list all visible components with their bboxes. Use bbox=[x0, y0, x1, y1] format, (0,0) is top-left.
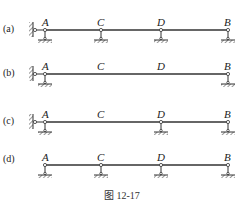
case-label: (b) bbox=[3, 67, 15, 79]
hinge-icon bbox=[33, 28, 36, 31]
node-label-c: C bbox=[97, 16, 105, 28]
hinge-icon bbox=[33, 72, 36, 75]
node-label-d: D bbox=[156, 60, 165, 72]
row-c: (c) A C D B bbox=[3, 108, 235, 135]
node-label-a: A bbox=[41, 60, 49, 72]
hinge-icon bbox=[33, 120, 36, 123]
node-label-a: A bbox=[41, 151, 49, 163]
node-label-b: B bbox=[224, 108, 231, 120]
node-label-b: B bbox=[224, 60, 231, 72]
case-label: (a) bbox=[3, 23, 14, 35]
node-label-c: C bbox=[97, 151, 105, 163]
node-label-b: B bbox=[224, 151, 231, 163]
node-label-a: A bbox=[41, 16, 49, 28]
node-label-d: D bbox=[156, 16, 165, 28]
wall-hatch-icon bbox=[29, 66, 33, 81]
row-d: (d) A C D B bbox=[3, 151, 235, 178]
node-label-a: A bbox=[41, 108, 49, 120]
node-label-c: C bbox=[97, 108, 105, 120]
wall-hatch-icon bbox=[29, 114, 33, 129]
node-label-d: D bbox=[156, 108, 165, 120]
figure-caption: 图 12-17 bbox=[104, 190, 140, 201]
wall-hatch-icon bbox=[29, 22, 33, 37]
beam-diagram: (a) A C D bbox=[0, 0, 245, 209]
row-a: (a) A C D bbox=[3, 16, 235, 43]
case-label: (d) bbox=[3, 153, 15, 165]
node-label-b: B bbox=[224, 16, 231, 28]
row-b: (b) A C D B bbox=[3, 60, 235, 87]
node-label-c: C bbox=[97, 60, 105, 72]
node-label-d: D bbox=[156, 151, 165, 163]
case-label: (c) bbox=[3, 115, 14, 127]
